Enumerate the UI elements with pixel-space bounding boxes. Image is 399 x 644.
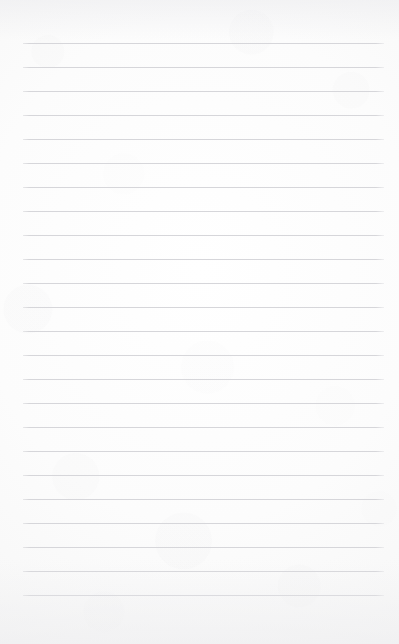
writing-area[interactable] [23,43,384,596]
notepad-page [0,0,399,644]
